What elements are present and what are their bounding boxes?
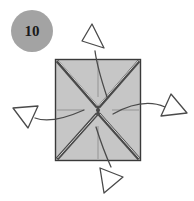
origami-step-figure: 10 [0,0,194,201]
figure-canvas: 10 [0,0,194,201]
step-number-label: 10 [25,23,40,39]
step-number-badge: 10 [11,10,53,52]
